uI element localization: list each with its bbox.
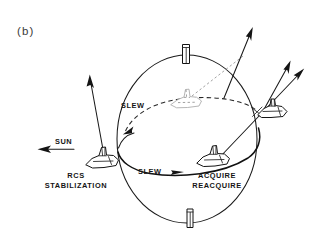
sight-line-dashed-fine [192,56,243,96]
acquire-label-line2: REACQUIRE [179,182,255,190]
figure-caption-label: (b) [17,25,34,38]
shuttle-acquire [197,146,230,167]
slew-upper-label: SLEW [121,102,145,110]
rcs-stabilization-label-line1: RCS [30,172,122,180]
north-pole-cylinder [183,45,190,64]
rcs-stabilization-label-line2: STABILIZATION [30,182,122,190]
boresight-arrow-rcs [87,75,94,89]
boresight-line-upper-right [224,33,251,98]
shuttle-right-edge [258,99,287,118]
figure-root: (b) SUN SLEW SLEW RCS STABILIZATION ACQU… [0,0,321,238]
acquire-label-line1: ACQUIRE [179,172,255,180]
slew-path-lower-left-hook [119,133,135,148]
sun-label: SUN [55,138,72,146]
shuttle-rcs-stabilization [86,147,119,168]
boresight-arrow-upper-right [246,27,253,41]
boresight-line-rcs [91,81,105,155]
diagram-canvas [0,0,321,238]
south-pole-cylinder [187,209,193,228]
slew-lower-label: SLEW [138,168,162,176]
celestial-sphere-outline [117,55,257,223]
